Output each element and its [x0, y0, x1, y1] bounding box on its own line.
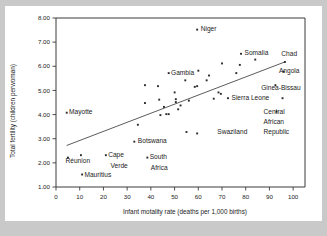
point-label: Central: [264, 108, 286, 115]
y-tick-label: 1.00: [38, 183, 51, 190]
point-label: Ginea-Bissau: [261, 84, 301, 91]
figure-root: 1.002.003.004.005.006.007.008.00 0102030…: [0, 0, 327, 236]
y-tick-label: 6.00: [38, 62, 51, 69]
point-label: Gambia: [171, 69, 194, 76]
x-axis-ticks: 0102030405060708090100: [54, 187, 299, 200]
data-point: [146, 157, 148, 159]
data-point: [165, 113, 167, 115]
data-point: [157, 85, 159, 87]
data-point: [175, 98, 177, 100]
x-tick-label: 30: [124, 193, 131, 200]
data-point: [282, 97, 284, 99]
data-point: [221, 62, 223, 64]
y-axis-title: Total fertility (children perwoman): [9, 64, 17, 158]
y-tick-label: 8.00: [38, 14, 51, 21]
bottom-margin-band: [0, 221, 327, 236]
data-point: [196, 29, 198, 31]
x-tick-label: 40: [147, 193, 154, 200]
data-point: [284, 61, 286, 63]
data-point: [163, 106, 165, 108]
data-point: [194, 86, 196, 88]
data-point: [177, 108, 179, 110]
data-point: [227, 97, 229, 99]
x-tick-label: 80: [242, 193, 249, 200]
x-tick-label: 20: [100, 193, 107, 200]
data-point: [159, 114, 161, 116]
chart-card: 1.002.003.004.005.006.007.008.00 0102030…: [5, 6, 322, 221]
data-point: [188, 100, 190, 102]
y-tick-label: 7.00: [38, 38, 51, 45]
point-label: Swaziland: [217, 128, 247, 135]
scatter-plot: 1.002.003.004.005.006.007.008.00 0102030…: [5, 6, 322, 221]
data-point: [174, 91, 176, 93]
y-tick-label: 3.00: [38, 135, 51, 142]
y-tick-label: 4.00: [38, 111, 51, 118]
data-point: [197, 70, 199, 72]
point-labels: NigerSomaliaChadAngolaGinea-BissauSierra…: [65, 25, 301, 178]
data-point: [80, 154, 82, 156]
point-label: Republic: [264, 128, 290, 136]
x-tick-label: 10: [76, 193, 83, 200]
data-point: [235, 72, 237, 74]
x-tick-label: 60: [195, 193, 202, 200]
y-tick-label: 2.00: [38, 159, 51, 166]
x-tick-label: 70: [219, 193, 226, 200]
data-point: [144, 102, 146, 104]
data-point: [254, 59, 256, 61]
data-point: [137, 124, 139, 126]
x-tick-label: 50: [171, 193, 178, 200]
axis-frame: [56, 18, 305, 187]
x-tick-label: 100: [288, 193, 299, 200]
data-point: [175, 101, 177, 103]
x-axis-title: Infant motality rate (deaths per 1,000 b…: [123, 208, 247, 216]
data-point: [105, 154, 107, 156]
data-point: [186, 131, 188, 133]
point-label: Sierra Leone: [231, 94, 269, 101]
point-label: Africa: [151, 164, 168, 171]
point-label: Verde: [111, 162, 129, 169]
point-label: Mauritius: [84, 171, 111, 178]
y-tick-label: 5.00: [38, 87, 51, 94]
point-label: African: [264, 118, 285, 125]
point-label: Niger: [201, 25, 218, 33]
data-point: [196, 133, 198, 135]
point-label: Somalia: [245, 49, 269, 56]
y-axis-ticks: 1.002.003.004.005.006.007.008.00: [38, 14, 56, 190]
data-point: [196, 85, 198, 87]
data-point: [184, 79, 186, 81]
x-tick-label: 0: [54, 193, 58, 200]
data-point: [180, 104, 182, 106]
data-point: [220, 93, 222, 95]
point-label: Mayotte: [69, 108, 93, 116]
data-point: [213, 98, 215, 100]
data-point: [158, 99, 160, 101]
point-label: Chad: [281, 50, 297, 57]
data-point: [218, 91, 220, 93]
point-label: Botswana: [138, 137, 167, 144]
data-point: [168, 72, 170, 74]
x-tick-label: 90: [266, 193, 273, 200]
point-label: Cape: [108, 151, 124, 159]
point-label: Réunion: [65, 157, 90, 164]
data-point: [239, 64, 241, 66]
data-point: [81, 174, 83, 176]
data-point: [206, 79, 208, 81]
data-point: [144, 84, 146, 86]
data-point: [66, 112, 68, 114]
data-point: [168, 113, 170, 115]
point-label: South: [150, 153, 168, 160]
data-point: [208, 75, 210, 77]
point-label: Angola: [279, 67, 300, 75]
data-point: [133, 141, 135, 143]
data-point: [240, 53, 242, 55]
